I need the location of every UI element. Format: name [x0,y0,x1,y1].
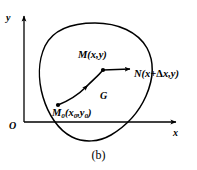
point-n-suffix: x,y) [163,68,179,79]
m0-args-sub1: 0 [74,112,78,120]
segment-m-to-n [103,69,130,70]
delta-symbol: Δ [156,68,163,79]
region-boundary-curve [39,23,152,141]
point-m-label: M(x,y) [78,50,107,61]
path-g-curve [58,87,86,105]
m0-args-mid: ,y [77,107,84,118]
point-n-prefix: N(x+ [134,68,156,79]
curve-g-label: G [100,91,107,101]
m0-args-open: (x [65,107,74,118]
y-axis-label: y [6,13,10,23]
m0-args-sub2: 0 [85,112,89,120]
point-n-label: N(x+Δx,y) [134,69,179,80]
x-axis-label: x [173,128,178,138]
point-m-dot [101,68,105,72]
figure-drawing [0,0,197,170]
m0-name: M [52,107,61,118]
figure-container: y x O M(x,y) N(x+Δx,y) M0(x0,y0) G (b) [0,0,197,170]
path-g-curve-upper [86,70,103,87]
m0-args-close: ) [88,107,92,118]
figure-caption: (b) [0,148,197,163]
origin-label: O [9,121,16,131]
m0-subscript: 0 [61,112,65,120]
point-m0-label: M0(x0,y0) [52,108,92,119]
